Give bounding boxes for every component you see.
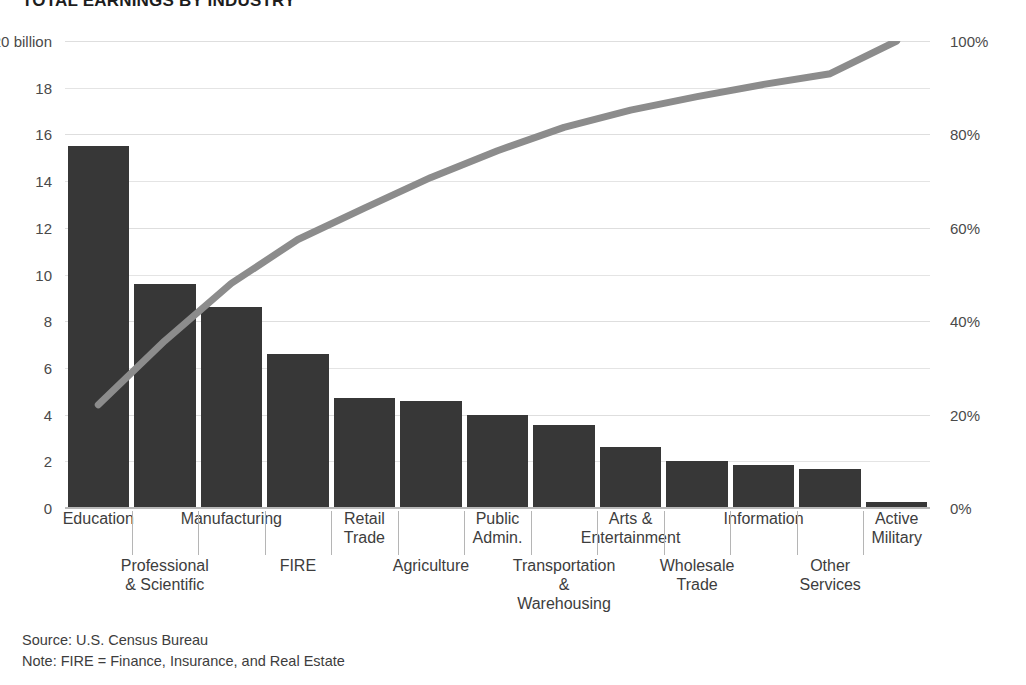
bar — [533, 425, 595, 508]
category-label-line: Transportation — [494, 556, 634, 575]
note-text: Note: FIRE = Finance, Insurance, and Rea… — [22, 651, 345, 672]
left-axis-tick: 14 — [35, 173, 52, 190]
category-label-line: & — [494, 575, 634, 594]
category-separator — [597, 511, 598, 555]
right-axis-tick: 40% — [950, 313, 980, 330]
left-axis-tick: 18 — [35, 79, 52, 96]
plot-area — [65, 41, 930, 508]
right-axis-tick: 80% — [950, 126, 980, 143]
category-label-line: Other — [760, 556, 900, 575]
footer-notes: Source: U.S. Census Bureau Note: FIRE = … — [22, 630, 345, 672]
category-label-line: Trade — [627, 575, 767, 594]
chart-root: TOTAL EARNINGS BY INDUSTRY $20 billion18… — [0, 0, 1026, 685]
category-label-line: Active — [827, 509, 967, 528]
category-separator — [730, 511, 731, 555]
bar-slot — [265, 41, 332, 508]
page-title: TOTAL EARNINGS BY INDUSTRY — [22, 0, 295, 11]
category-label-line: Warehousing — [494, 594, 634, 613]
bar — [799, 469, 861, 508]
category-label-line: Military — [827, 528, 967, 547]
left-axis-tick: 2 — [44, 453, 52, 470]
bar-slot — [531, 41, 598, 508]
category-axis: EducationProfessional& ScientificManufac… — [65, 509, 930, 619]
left-axis-tick: 8 — [44, 313, 52, 330]
category-label-line: Professional — [95, 556, 235, 575]
category-separator — [398, 511, 399, 555]
bar — [600, 447, 662, 508]
bar — [201, 307, 263, 508]
category-separator — [132, 511, 133, 555]
bar-slot — [597, 41, 664, 508]
category-separator — [531, 511, 532, 555]
bar — [666, 461, 728, 508]
left-axis-tick: $20 billion — [0, 33, 52, 50]
right-axis-tick: 60% — [950, 219, 980, 236]
category-label-line: Agriculture — [361, 556, 501, 575]
bar — [400, 401, 462, 508]
bar-slot — [331, 41, 398, 508]
bar-slot — [664, 41, 731, 508]
category-separator — [198, 511, 199, 555]
category-separator — [331, 511, 332, 555]
right-axis-tick: 20% — [950, 406, 980, 423]
category-label: ActiveMilitary — [827, 509, 967, 547]
right-axis-tick: 100% — [950, 33, 988, 50]
left-axis-tick: 16 — [35, 126, 52, 143]
bar — [68, 146, 130, 508]
category-label-line: & Scientific — [95, 575, 235, 594]
category-separator — [797, 511, 798, 555]
category-separator — [863, 511, 864, 555]
bar — [467, 415, 529, 508]
category-separator — [464, 511, 465, 555]
bar — [134, 284, 196, 508]
category-separator — [664, 511, 665, 555]
left-axis-tick: 6 — [44, 359, 52, 376]
left-axis-tick: 10 — [35, 266, 52, 283]
bar-series — [65, 41, 930, 508]
bar — [334, 398, 396, 508]
bar-slot — [730, 41, 797, 508]
bar-slot — [863, 41, 930, 508]
bar-slot — [398, 41, 465, 508]
source-text: Source: U.S. Census Bureau — [22, 630, 345, 651]
category-separator — [265, 511, 266, 555]
category-label-line: FIRE — [228, 556, 368, 575]
left-axis-tick: 12 — [35, 219, 52, 236]
bar-slot — [65, 41, 132, 508]
bar-slot — [464, 41, 531, 508]
left-axis-tick: 4 — [44, 406, 52, 423]
bar — [733, 465, 795, 508]
category-label-line: Services — [760, 575, 900, 594]
bar — [267, 354, 329, 508]
bar-slot — [198, 41, 265, 508]
category-label-line: Wholesale — [627, 556, 767, 575]
bar-slot — [132, 41, 199, 508]
bar-slot — [797, 41, 864, 508]
